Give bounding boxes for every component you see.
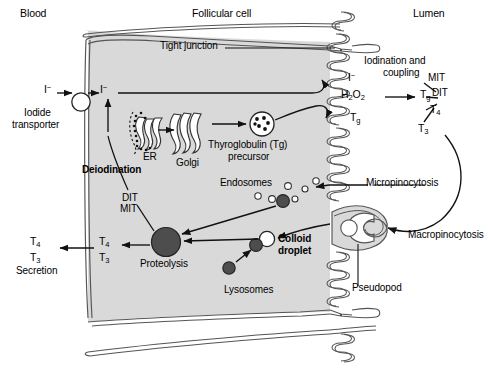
label-proteolysis: Proteolysis	[140, 259, 188, 270]
tight-junction-lower	[330, 310, 352, 317]
label-colloid-line1: Colloid	[278, 234, 311, 245]
region-label-blood: Blood	[20, 8, 46, 19]
label-iodination-line2: coupling	[383, 68, 419, 79]
label-t3-cell: T3	[99, 252, 109, 265]
label-micropinocytosis: Micropinocytosis	[366, 178, 438, 189]
engulfed-colloid-vesicle	[341, 220, 357, 236]
label-macropinocytosis: Macropinocytosis	[408, 230, 484, 241]
region-label-lumen: Lumen	[413, 8, 445, 19]
lysosome-attached	[250, 239, 263, 252]
label-tight-junction: Tight junction	[160, 41, 218, 52]
label-thyroglobulin-line1: Thyroglobulin (Tg)	[208, 140, 287, 151]
pseudopod-structure	[332, 206, 387, 286]
iodide-transporter-circle	[72, 93, 90, 111]
label-t3-lumen: T3	[418, 123, 428, 136]
label-iodide-lumen: I−	[348, 72, 355, 83]
proteolysis-body	[152, 228, 181, 257]
label-colloid-line2: droplet	[278, 246, 311, 257]
label-iodide-blood: I−	[44, 84, 51, 95]
thyroid-hormone-synthesis-diagram: Blood Follicular cell Lumen Tight juncti…	[0, 0, 488, 378]
label-pseudopod: Pseudopod	[352, 283, 402, 294]
label-dit-cell: DIT	[122, 193, 138, 204]
label-endosomes: Endosomes	[220, 178, 272, 189]
label-iodide-cell: I−	[100, 84, 107, 95]
label-er: ER	[143, 152, 157, 163]
label-thyroglobulin-line2: precursor	[228, 152, 269, 163]
region-label-follicular-cell: Follicular cell	[192, 8, 251, 19]
label-iodide-transporter-line2: transporter	[12, 120, 59, 131]
tight-junction-upper	[330, 44, 380, 52]
label-t3-blood: T3	[30, 252, 40, 265]
label-iodination-line1: Iodination and	[364, 56, 425, 67]
curve-t3-to-macropinocytosis	[441, 135, 461, 220]
label-tg-membrane: Tg	[350, 112, 360, 125]
label-lysosomes: Lysosomes	[224, 285, 273, 296]
label-tg-lumen: Tg	[420, 89, 430, 102]
label-t4-cell: T4	[99, 236, 109, 249]
thyroglobulin-precursor-vesicle	[250, 112, 274, 136]
label-t4-blood: T4	[30, 236, 40, 249]
apical-microvilli	[327, 12, 355, 362]
label-secretion: Secretion	[16, 266, 57, 277]
label-mit-lumen: MIT	[428, 73, 445, 84]
label-t4-lumen: T4	[430, 104, 440, 117]
label-deiodination: Deiodination	[82, 165, 141, 176]
label-golgi: Golgi	[176, 158, 199, 169]
label-iodide-transporter-line1: Iodide	[24, 108, 51, 119]
label-hydrogen-peroxide: H2O2	[341, 89, 365, 102]
endosome-fused-dark	[277, 195, 290, 208]
lysosome-free	[223, 262, 235, 274]
label-dit-lumen: DIT	[432, 88, 448, 99]
label-mit-cell: MIT	[120, 204, 137, 215]
